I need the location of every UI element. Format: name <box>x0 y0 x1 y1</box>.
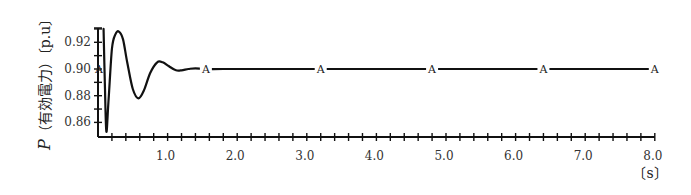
x-axis-title: 〔s〕 <box>632 165 667 181</box>
x-tick-label: 3.0 <box>295 149 314 163</box>
y-axis-ticks: 0.860.880.900.92 <box>64 29 102 129</box>
marker-a: A <box>316 63 326 76</box>
x-tick-label: 4.0 <box>365 149 384 163</box>
y-tick-label: 0.90 <box>64 62 91 76</box>
power-curve <box>104 29 655 132</box>
marker-a: A <box>650 63 660 76</box>
power-response-chart: P（有効電力）〔p.u〕 1.02.03.04.05.06.07.08.0 0.… <box>0 0 691 195</box>
x-tick-label: 2.0 <box>226 149 245 163</box>
y-tick-label: 0.86 <box>64 115 91 129</box>
y-axis-title: P（有効電力）〔p.u〕 <box>35 12 54 151</box>
marker-a: A <box>427 63 437 76</box>
x-tick-label: 5.0 <box>434 149 453 163</box>
x-tick-label: 8.0 <box>643 149 662 163</box>
axes <box>94 28 655 137</box>
x-tick-label: 7.0 <box>574 149 593 163</box>
marker-a: A <box>201 63 211 76</box>
x-tick-label: 1.0 <box>156 149 175 163</box>
x-tick-label: 6.0 <box>504 149 523 163</box>
marker-a: A <box>538 63 548 76</box>
y-tick-label: 0.92 <box>64 35 91 49</box>
marker-a: A <box>94 63 104 76</box>
y-axis-title-text: P（有効電力）〔p.u〕 <box>35 12 54 151</box>
y-tick-label: 0.88 <box>64 89 91 103</box>
